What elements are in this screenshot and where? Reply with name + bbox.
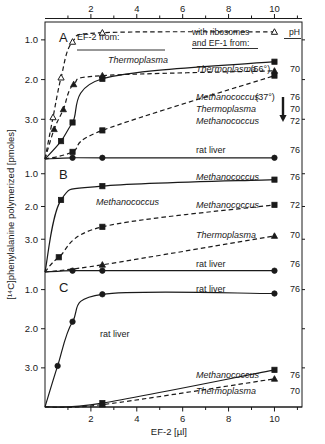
- series-5: rat liver76: [45, 145, 300, 161]
- data-point-square: [100, 224, 105, 229]
- data-point-triangle: [271, 233, 277, 239]
- panel-b: BMethanococcusMethanococcus76Methanococc…: [45, 167, 300, 273]
- y-axis-tick-label: 3.0: [25, 114, 38, 125]
- bottom-axis-tick-label: 6: [180, 413, 185, 424]
- data-point-square: [100, 128, 105, 133]
- series-4: rat liver76: [45, 259, 300, 273]
- data-point-circle: [272, 291, 277, 296]
- ph-value: 76: [290, 259, 300, 269]
- ph-value: 70: [290, 64, 300, 74]
- ph-value: 72: [290, 200, 300, 210]
- data-point-triangle: [60, 106, 66, 112]
- legend-label: Methanococcus: [196, 370, 260, 380]
- data-point-square: [272, 202, 277, 207]
- legend-label: Thermoplasma: [196, 386, 256, 396]
- panel-c: Crat liverrat liver76Methanococcus76Ther…: [45, 280, 300, 407]
- series-2: Methanococcus(37°)76: [45, 59, 300, 159]
- series-curve: [45, 71, 274, 159]
- legend-label: rat liver: [196, 259, 226, 269]
- top-axis-tick-label: 6: [180, 3, 185, 14]
- data-point-circle: [100, 268, 105, 273]
- y-axis-tick-label: 1.0: [25, 168, 38, 179]
- ph-value: 70: [290, 230, 300, 240]
- plot-frame: [45, 22, 302, 407]
- panel-a: AEF-2 from:with ribosomesand EF-1 from:p…: [45, 27, 301, 161]
- data-point-square: [58, 139, 63, 144]
- legend-label-suffix: (56°): [251, 64, 271, 74]
- data-point-square: [56, 255, 61, 260]
- top-axis-tick-label: 4: [134, 3, 139, 14]
- data-point-circle: [100, 292, 105, 297]
- legend-label-suffix: (37°): [255, 92, 275, 102]
- ph-value: 76: [290, 145, 300, 155]
- legend-label: Methanococcus: [196, 172, 260, 182]
- ph-value: 70: [290, 104, 300, 114]
- data-point-square: [58, 197, 63, 202]
- y-axis-title: [¹⁴C]phenylalanine polymerized [pmoles]: [5, 129, 16, 299]
- legend-label: rat liver: [196, 145, 226, 155]
- data-point-square: [272, 59, 277, 64]
- data-point-triangle-open: [50, 114, 56, 120]
- series-1: rat liver76: [45, 284, 300, 407]
- ph-value: 76: [290, 172, 300, 182]
- y-axis-tick-label: 2.0: [25, 74, 38, 85]
- data-point-circle: [70, 319, 75, 324]
- series-3: Thermoplasma70: [45, 376, 300, 408]
- top-axis-tick-label: 8: [226, 3, 231, 14]
- y-axis-tick-label: 2.0: [25, 323, 38, 334]
- legend-label: Methanococcus: [196, 200, 260, 210]
- panel-inner-label: rat liver: [100, 329, 130, 339]
- legend-label: Methanococcus: [196, 116, 260, 126]
- top-axis-tick-label: 2: [88, 3, 93, 14]
- data-point-circle: [272, 268, 277, 273]
- ph-value: 76: [290, 370, 300, 380]
- multi-panel-line-chart: 246810246810EF-2 [µl]3.02.01.03.02.01.03…: [0, 0, 325, 444]
- panel-letter-a: A: [59, 30, 68, 45]
- ph-value: 76: [290, 92, 300, 102]
- ph-value: 76: [290, 284, 300, 294]
- data-point-circle: [70, 268, 75, 273]
- data-point-square: [70, 149, 75, 154]
- data-point-triangle: [271, 376, 277, 382]
- data-point-circle: [100, 155, 105, 160]
- bottom-axis-tick-label: 10: [269, 413, 280, 424]
- data-point-square: [272, 73, 277, 78]
- series-2: Methanococcus72: [45, 200, 300, 272]
- series-curve: [45, 180, 274, 272]
- legend-label: Thermoplasma: [196, 104, 256, 114]
- series-3: Thermoplasma70: [45, 230, 300, 272]
- top-axis-tick-label: 10: [269, 3, 280, 14]
- series-curve: [45, 271, 274, 272]
- ph-value: 70: [290, 386, 300, 396]
- data-point-circle: [55, 363, 60, 368]
- ph-value: 72: [290, 116, 300, 126]
- series-3: Thermoplasma70: [45, 68, 300, 159]
- panel-inner-label: Methanococcus: [96, 197, 160, 207]
- data-point-square: [70, 120, 75, 125]
- data-point-triangle: [51, 126, 57, 132]
- y-axis-tick-label: 2.0: [25, 201, 38, 212]
- y-axis-tick-label: 3.0: [25, 362, 38, 373]
- y-axis-tick-label: 1.0: [25, 34, 38, 45]
- ph-column-header: pH: [289, 27, 300, 37]
- data-point-square: [272, 367, 277, 372]
- series-1: Methanococcus76: [45, 172, 300, 272]
- data-point-triangle: [271, 68, 277, 74]
- bottom-axis-tick-label: 8: [226, 413, 231, 424]
- series-4: Methanococcus72: [45, 73, 300, 159]
- data-point-square: [272, 177, 277, 182]
- y-axis-tick-label: 3.0: [25, 234, 38, 245]
- series-curve: [45, 158, 274, 159]
- data-point-square: [100, 184, 105, 189]
- bottom-axis-tick-label: 4: [134, 413, 139, 424]
- data-point-circle: [70, 155, 75, 160]
- panel-letter-c: C: [59, 280, 68, 295]
- data-point-triangle-open: [58, 74, 64, 80]
- figure-container: 246810246810EF-2 [µl]3.02.01.03.02.01.03…: [0, 0, 325, 444]
- data-point-circle: [272, 155, 277, 160]
- panel-letter-b: B: [59, 167, 68, 182]
- legend-label: rat liver: [196, 284, 226, 294]
- panel-inner-label: Thermoplasma: [108, 55, 168, 65]
- series-2: Methanococcus76: [45, 367, 300, 407]
- series-curve: [45, 236, 274, 272]
